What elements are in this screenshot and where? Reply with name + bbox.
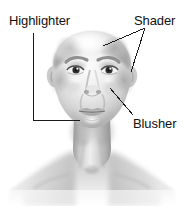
forehead-highlight: [72, 33, 108, 55]
eye-left-catchlight: [76, 68, 78, 70]
eye-right: [101, 66, 118, 74]
eye-right-catchlight: [109, 68, 111, 70]
sternal-notch: [85, 166, 99, 174]
illustration-canvas: [0, 0, 186, 206]
eye-left: [67, 66, 84, 74]
makeup-placement-diagram: Highlighter Shader Blusher: [0, 0, 186, 206]
cheek-highlight-left: [69, 76, 83, 84]
cheek-highlight-right: [101, 76, 115, 84]
annotation-label-blusher: Blusher: [133, 117, 176, 130]
annotation-label-highlighter: Highlighter: [9, 14, 70, 27]
annotation-label-shader: Shader: [134, 14, 175, 27]
bottom-fade: [0, 190, 186, 206]
